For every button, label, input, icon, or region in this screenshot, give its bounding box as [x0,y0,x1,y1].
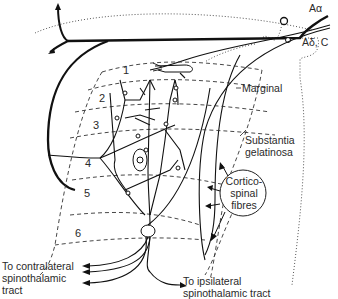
contralateral-label: To contralateral spinothalamic tract [2,260,74,296]
arrow-left-icon [48,48,55,54]
a-alpha-label: Aα [309,2,322,14]
lamina-2-label: 2 [99,92,105,104]
arrow-up-icon [55,3,61,10]
substantia-label-1: Substantia [245,134,295,146]
corticospinal-label: Cortico- spinal fibres [222,175,266,211]
dorsal-boundary-dotted [35,14,312,33]
lamina-5-label: 5 [84,187,90,199]
substantia-label-2: gelatinosa [245,146,293,158]
ipsilateral-label: To ipsilateral spinothalamic tract [183,275,271,299]
lamina-3-label: 3 [93,119,99,131]
lamina-4-label: 4 [85,157,91,169]
a-alpha-collateral [48,41,108,190]
neuron-dendrites [48,73,185,225]
lamina-1-label: 1 [123,64,129,76]
a-delta-c-label: Aδ, C [302,36,328,48]
lamina5-neuron [141,225,155,237]
a-alpha-cell-body [281,18,288,25]
lamina-6-label: 6 [75,227,81,239]
marginal-label: Marginal [242,82,282,94]
